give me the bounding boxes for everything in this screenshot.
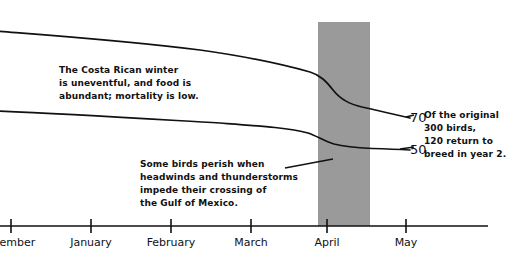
x-tick-label-april: April (314, 236, 339, 249)
x-tick-label-february: February (147, 236, 196, 249)
annotation-return-summary: Of the original 300 birds, 120 return to… (424, 109, 506, 161)
gulf-crossing-highlight-band (318, 22, 370, 226)
x-tick-label-may: May (395, 236, 418, 249)
annotation-gulf-crossing-mortality: Some birds perish when headwinds and thu… (140, 158, 298, 210)
annotation-costa-rican-winter: The Costa Rican winter is uneventful, an… (59, 64, 199, 103)
chart-container: The Costa Rican winter is uneventful, an… (0, 0, 532, 268)
x-tick-label-january: January (70, 236, 112, 249)
x-tick-label-december: ecember (0, 236, 35, 249)
x-tick-label-march: March (234, 236, 268, 249)
